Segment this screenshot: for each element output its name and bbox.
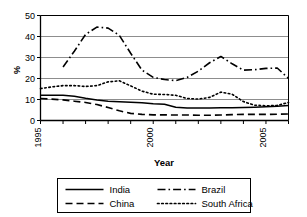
legend-label-south-africa: South Africa: [202, 198, 254, 209]
y-axis-tick-label: 20: [25, 74, 35, 84]
x-axis-tick-label: 2000: [145, 128, 155, 148]
y-axis-tick-label: 30: [25, 53, 35, 63]
y-axis-title: %: [12, 66, 22, 74]
x-axis-tick-label: 2005: [258, 128, 268, 148]
y-axis-tick-label: 0: [30, 116, 35, 126]
y-axis-tick-label: 10: [25, 95, 35, 105]
legend-label-brazil: Brazil: [202, 184, 226, 195]
y-axis-tick-label: 40: [25, 32, 35, 42]
legend-label-india: India: [110, 184, 131, 195]
y-axis-tick-label: 50: [25, 11, 35, 21]
x-axis-title: Year: [154, 157, 174, 168]
line-chart: 01020304050199520002005Year%IndiaBrazilC…: [0, 0, 307, 217]
x-axis-tick-label: 1995: [33, 128, 43, 148]
legend-label-china: China: [110, 198, 136, 209]
chart-container: 01020304050199520002005Year%IndiaBrazilC…: [0, 0, 307, 217]
